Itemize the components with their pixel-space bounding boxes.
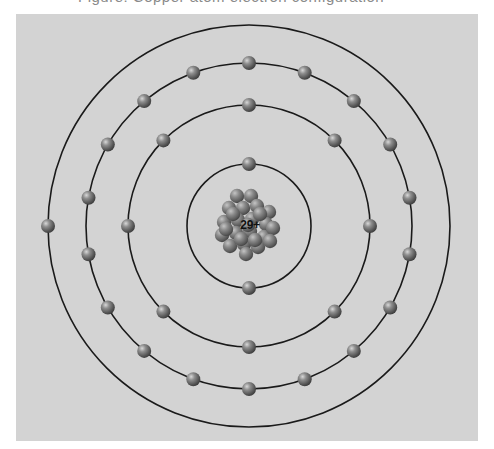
electron — [242, 382, 256, 396]
electron — [328, 133, 342, 147]
electron — [403, 191, 417, 205]
electron — [121, 219, 135, 233]
electron — [347, 344, 361, 358]
nucleon — [234, 232, 248, 246]
electron — [328, 305, 342, 319]
electron — [41, 219, 55, 233]
electron — [403, 247, 417, 261]
electron — [156, 133, 170, 147]
electron — [383, 301, 397, 315]
nucleon — [263, 234, 277, 248]
electron — [298, 372, 312, 386]
electron — [156, 305, 170, 319]
electron — [242, 157, 256, 171]
electron — [186, 66, 200, 80]
electron — [242, 98, 256, 112]
electron — [82, 247, 96, 261]
electron — [186, 372, 200, 386]
electron — [242, 56, 256, 70]
nucleus-charge-label: 29+ — [230, 218, 270, 232]
electron — [347, 94, 361, 108]
electron — [298, 66, 312, 80]
electron — [137, 94, 151, 108]
nucleon — [239, 247, 253, 261]
electron — [242, 340, 256, 354]
electron — [137, 344, 151, 358]
electron — [101, 138, 115, 152]
electron — [242, 281, 256, 295]
nucleon — [248, 233, 262, 247]
electron — [82, 191, 96, 205]
electron — [363, 219, 377, 233]
electron — [383, 138, 397, 152]
electron — [101, 301, 115, 315]
